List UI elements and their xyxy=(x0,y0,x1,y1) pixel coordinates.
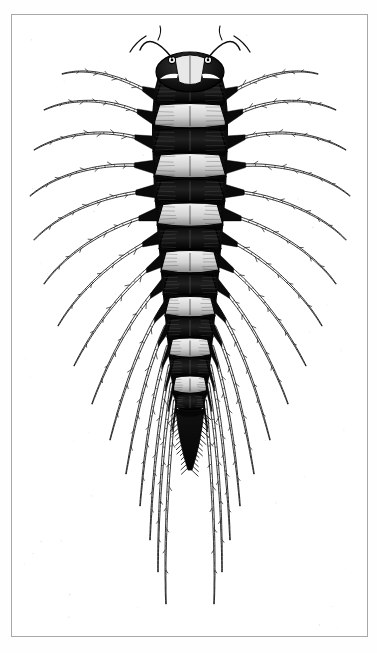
leg-seta xyxy=(228,369,229,372)
leg-seta xyxy=(156,354,157,359)
leg-seta xyxy=(229,427,230,430)
leg xyxy=(150,358,172,540)
paper-fleck xyxy=(137,607,138,608)
paper-fleck xyxy=(201,312,202,313)
leg-coxa xyxy=(224,184,244,198)
leg xyxy=(62,69,158,103)
eye xyxy=(207,59,210,62)
leg-coxa xyxy=(214,298,226,323)
eye xyxy=(171,59,174,62)
leg-shaft xyxy=(62,71,157,97)
leg-seta xyxy=(103,104,106,106)
leg-seta xyxy=(250,219,253,220)
paper-fleck xyxy=(275,502,277,504)
leg xyxy=(208,358,231,540)
leg-seta xyxy=(254,161,258,164)
paper-fleck xyxy=(139,235,140,236)
paper-fleck xyxy=(200,269,201,270)
leg-seta xyxy=(245,432,246,434)
paper-fleck xyxy=(78,628,79,629)
antenna-branch xyxy=(219,26,222,40)
leg-coxa xyxy=(136,184,156,198)
leg-seta xyxy=(153,410,155,414)
leg-coxa xyxy=(225,160,246,174)
leg-coxa xyxy=(139,207,158,221)
paper-fleck xyxy=(35,29,36,30)
leg-coxa xyxy=(143,230,160,247)
leg xyxy=(110,298,166,440)
leg-seta xyxy=(84,131,88,133)
telson-spine xyxy=(192,470,199,476)
leg-annulation xyxy=(46,228,47,229)
paper-fleck xyxy=(93,211,94,212)
paper-fleck xyxy=(164,415,165,416)
leg-seta xyxy=(319,103,321,104)
paper-fleck xyxy=(336,628,337,629)
leg-seta xyxy=(222,393,224,397)
paper-fleck xyxy=(69,594,71,596)
paper-fleck xyxy=(91,495,92,496)
leg-seta xyxy=(253,191,257,193)
leg-coxa xyxy=(218,253,234,273)
leg-seta xyxy=(307,211,311,212)
leg-seta xyxy=(321,266,324,267)
leg-coxa xyxy=(154,298,166,323)
leg-coxa xyxy=(137,109,155,126)
leg-coxa xyxy=(220,230,237,247)
leg-seta xyxy=(138,416,139,419)
leg xyxy=(74,253,162,366)
leg-shaft xyxy=(74,259,161,366)
telson xyxy=(176,410,204,470)
leg-shaft xyxy=(209,365,231,540)
paper-fleck xyxy=(195,557,196,558)
leg-seta xyxy=(257,400,258,403)
leg-seta xyxy=(151,329,152,334)
body-segment xyxy=(175,394,205,417)
paper-fleck xyxy=(162,486,163,487)
leg-seta xyxy=(328,141,330,142)
leg-seta xyxy=(55,177,58,178)
paper-fleck xyxy=(309,331,310,332)
paper-fleck xyxy=(310,100,311,101)
leg-seta xyxy=(254,83,257,84)
paper-fleck xyxy=(32,188,33,189)
centipede-illustration xyxy=(0,0,377,653)
leg-shaft xyxy=(219,259,306,366)
terminal-segment xyxy=(169,410,211,476)
leg-annulation xyxy=(333,228,334,229)
antenna-branch xyxy=(158,26,161,40)
leg-annulation xyxy=(43,186,44,187)
leg-seta xyxy=(110,195,114,196)
leg-seta xyxy=(233,461,235,464)
terminal-leg-group xyxy=(169,410,211,476)
paper-fleck xyxy=(179,125,180,126)
leg-shaft xyxy=(226,190,346,241)
leg-seta xyxy=(247,370,248,373)
leg-seta xyxy=(126,110,129,111)
leg-shaft xyxy=(34,190,154,241)
leg xyxy=(224,184,346,240)
paper-fleck xyxy=(319,624,321,626)
leg-seta xyxy=(78,294,80,295)
leg-coxa xyxy=(135,160,156,174)
paper-fleck xyxy=(88,432,89,433)
leg-seta xyxy=(122,137,127,139)
leg-annulation xyxy=(343,191,344,192)
paper-fleck xyxy=(143,155,144,156)
paper-fleck xyxy=(46,286,47,287)
leg-seta xyxy=(271,367,272,371)
leg-coxa xyxy=(226,135,245,150)
paper-fleck xyxy=(115,293,116,294)
leg-seta xyxy=(97,273,101,274)
leg-annulation xyxy=(82,350,83,351)
paper-fleck xyxy=(54,80,55,81)
leg-seta xyxy=(82,204,86,205)
paper-fleck xyxy=(295,272,296,273)
leg-shaft xyxy=(223,71,318,97)
leg-shaft xyxy=(150,365,172,540)
leg-seta xyxy=(309,173,311,174)
paper-fleck xyxy=(147,245,148,246)
leg-seta xyxy=(127,385,128,389)
leg-annulation xyxy=(325,271,326,272)
paper-fleck xyxy=(331,606,332,607)
